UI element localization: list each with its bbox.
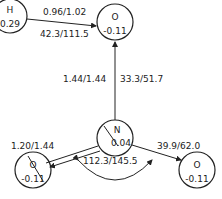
bond-h-o-label-2: 42.3/111.5 bbox=[40, 29, 89, 39]
angle-label: 112.3/145.5 bbox=[83, 156, 138, 166]
bond-h-o-label-1: 0.96/1.02 bbox=[43, 7, 86, 17]
atom-o-top-symbol: O bbox=[100, 12, 130, 22]
bond-o-n-label-2: 33.3/51.7 bbox=[120, 74, 163, 84]
atom-o-left-symbol: O bbox=[18, 160, 48, 170]
atom-o-right-charge: -0.11 bbox=[182, 174, 212, 184]
bond-n-o-right-label: 39.9/62.0 bbox=[157, 141, 200, 151]
atom-n-symbol: N bbox=[102, 125, 132, 135]
atom-o-right-symbol: O bbox=[182, 160, 212, 170]
atom-h-symbol: H bbox=[0, 5, 25, 15]
atom-n-charge: 0.04 bbox=[106, 138, 136, 148]
atom-o-top-charge: -0.11 bbox=[100, 26, 130, 36]
atom-h-charge: 0.29 bbox=[0, 19, 25, 29]
bond-o-n-label-1: 1.44/1.44 bbox=[63, 74, 106, 84]
bond-n-o-left-label: 1.20/1.44 bbox=[11, 141, 54, 151]
atom-o-left-charge: -0.11 bbox=[18, 174, 48, 184]
